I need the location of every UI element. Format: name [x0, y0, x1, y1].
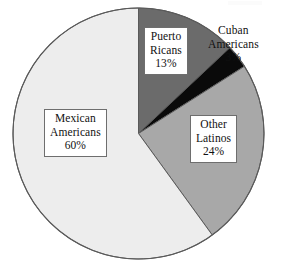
slice-label-other-latinos-line1: Other — [196, 118, 231, 132]
slice-label-cuban-americans: Cuban Americans 3% — [208, 24, 259, 65]
scan-artifact — [228, 1, 262, 5]
slice-label-cuban-americans-value: 3% — [208, 51, 259, 65]
slice-label-puerto-ricans-line1: Puerto — [150, 30, 182, 44]
slice-label-puerto-ricans-value: 13% — [150, 57, 182, 71]
slice-label-mexican-americans-value: 60% — [50, 139, 101, 153]
slice-label-mexican-americans-line2: Americans — [50, 126, 101, 140]
pie-chart: Puerto Ricans 13% Cuban Americans 3% Oth… — [0, 0, 298, 268]
slice-label-cuban-americans-line2: Americans — [208, 38, 259, 52]
slice-label-mexican-americans-line1: Mexican — [50, 112, 101, 126]
slice-label-cuban-americans-line1: Cuban — [208, 24, 259, 38]
slice-label-puerto-ricans-line2: Ricans — [150, 44, 182, 58]
slice-label-other-latinos-value: 24% — [196, 145, 231, 159]
slice-label-puerto-ricans: Puerto Ricans 13% — [144, 27, 188, 75]
slice-label-other-latinos: Other Latinos 24% — [190, 115, 237, 163]
slice-label-mexican-americans: Mexican Americans 60% — [44, 109, 107, 157]
slice-label-other-latinos-line2: Latinos — [196, 132, 231, 146]
